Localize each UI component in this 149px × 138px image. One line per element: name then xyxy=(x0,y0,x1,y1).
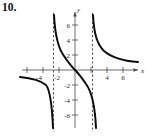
y-tick-label-neg4: -4 xyxy=(64,97,70,105)
graph-plot: x y -4 -2 4 6 6 4 2 -2 -4 -6 xyxy=(0,0,149,138)
y-tick-label-6: 6 xyxy=(67,22,71,30)
x-axis-arrow xyxy=(134,68,139,72)
x-axis xyxy=(22,68,138,72)
y-tick-label-4: 4 xyxy=(67,37,71,45)
x-axis-label: x xyxy=(140,67,145,75)
x-tick-label-6: 6 xyxy=(121,74,125,82)
function-curves xyxy=(20,15,138,128)
x-tick-label-neg2: -2 xyxy=(54,74,60,82)
x-tick-label-4: 4 xyxy=(105,74,109,82)
figure-container: 10. xyxy=(0,0,149,138)
y-tick-label-neg2: -2 xyxy=(64,82,70,90)
x-tick-label-neg4: -4 xyxy=(36,74,42,82)
curve-left-branch xyxy=(20,77,53,128)
y-tick-label-neg6: -6 xyxy=(64,112,70,120)
y-tick-label-2: 2 xyxy=(67,52,71,60)
curve-right-branch xyxy=(93,15,138,62)
y-axis-label: y xyxy=(76,6,81,14)
